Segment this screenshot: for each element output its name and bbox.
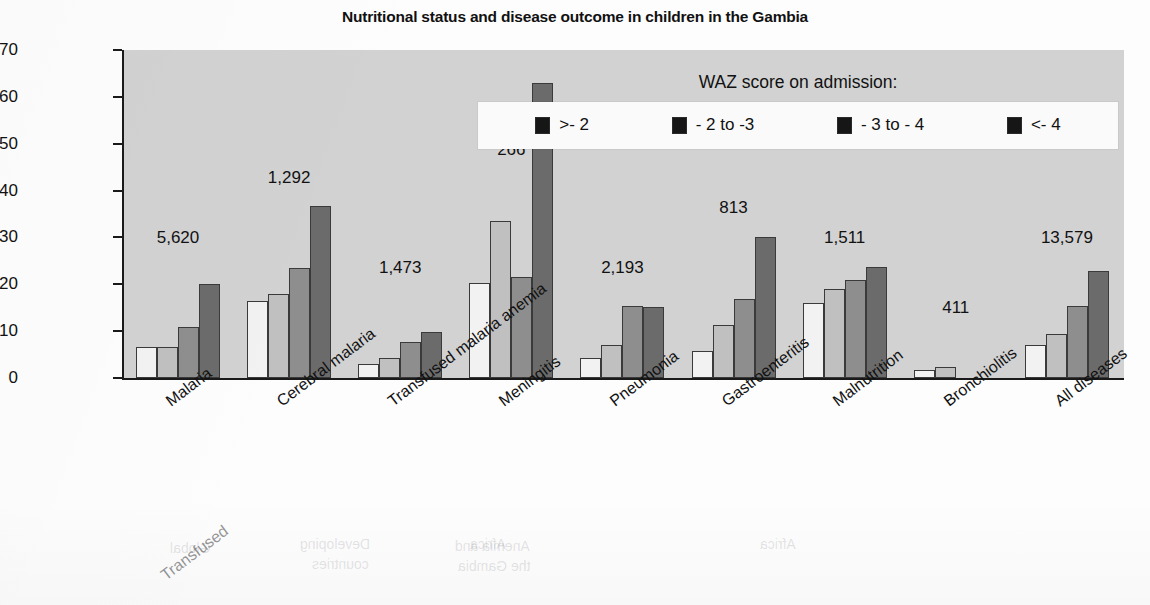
legend-box: >- 2 - 2 to -3 - 3 to - 4 <- 4	[478, 102, 1118, 149]
y-tick-mark	[113, 96, 122, 98]
bar-group	[136, 50, 220, 378]
group-count-label: 2,193	[601, 258, 644, 278]
bar[interactable]	[692, 351, 713, 378]
bar[interactable]	[1046, 334, 1067, 378]
y-tick-mark	[113, 49, 122, 51]
legend-swatch-icon	[672, 117, 687, 134]
ghost-text-fragment: countries	[312, 556, 369, 572]
legend-item-0[interactable]: >- 2	[535, 115, 589, 135]
y-tick-label: 10	[0, 321, 18, 341]
bar[interactable]	[580, 358, 601, 378]
bar[interactable]	[713, 325, 734, 378]
group-count-label: 1,511	[824, 228, 865, 248]
y-tick-mark	[113, 283, 122, 285]
bar[interactable]	[1067, 306, 1088, 378]
legend-item-label: - 2 to -3	[696, 115, 755, 135]
ghost-text-fragment: Developing	[300, 536, 370, 552]
bar[interactable]	[289, 268, 310, 378]
y-tick-mark	[113, 236, 122, 238]
bar[interactable]	[136, 347, 157, 378]
bar[interactable]	[601, 345, 622, 378]
group-count-label: 13,579	[1041, 228, 1093, 248]
bar[interactable]	[1025, 345, 1046, 378]
group-count-label: 1,292	[268, 168, 311, 188]
y-tick-mark	[113, 330, 122, 332]
y-tick-label: 50	[0, 134, 18, 154]
legend: WAZ score on admission: >- 2 - 2 to -3 -…	[478, 72, 1118, 149]
bar[interactable]	[824, 289, 845, 378]
legend-item-label: >- 2	[559, 115, 589, 135]
bar[interactable]	[310, 206, 331, 378]
legend-item-1[interactable]: - 2 to -3	[672, 115, 755, 135]
y-tick-label: 60	[0, 87, 18, 107]
y-tick-label: 0	[0, 368, 18, 388]
group-count-label: 1,473	[379, 258, 422, 278]
ghost-text-fragment: Africa	[760, 536, 796, 552]
ghost-text-fragment: Anemia and	[455, 538, 530, 554]
y-tick-mark	[113, 143, 122, 145]
bar[interactable]	[379, 358, 400, 378]
ghost-text-fragment: the Gambia	[458, 558, 530, 574]
bar[interactable]	[935, 367, 956, 378]
y-tick-label: 70	[0, 40, 18, 60]
bar[interactable]	[199, 284, 220, 378]
group-count-label: 5,620	[157, 228, 200, 248]
bar[interactable]	[622, 306, 643, 378]
legend-swatch-icon	[535, 117, 550, 134]
bar[interactable]	[845, 280, 866, 378]
legend-title: WAZ score on admission:	[478, 72, 1118, 93]
legend-item-2[interactable]: - 3 to - 4	[837, 115, 924, 135]
bar[interactable]	[157, 347, 178, 378]
ghost-text-fragment: Africa	[470, 536, 506, 552]
bar[interactable]	[490, 221, 511, 378]
legend-item-label: <- 4	[1031, 115, 1061, 135]
bar[interactable]	[734, 299, 755, 378]
bar[interactable]	[247, 301, 268, 378]
legend-swatch-icon	[1007, 117, 1022, 134]
bar[interactable]	[914, 370, 935, 378]
legend-item-3[interactable]: <- 4	[1007, 115, 1061, 135]
legend-swatch-icon	[837, 117, 852, 134]
y-tick-label: 20	[0, 274, 18, 294]
y-tick-label: 40	[0, 181, 18, 201]
y-tick-mark	[113, 377, 122, 379]
bar-group	[247, 50, 331, 378]
group-count-label: 813	[719, 198, 747, 218]
x-tick-label-overflow: Transfused	[158, 522, 232, 584]
legend-item-label: - 3 to - 4	[861, 115, 924, 135]
y-tick-mark	[113, 190, 122, 192]
bar[interactable]	[268, 294, 289, 378]
y-tick-label: 30	[0, 227, 18, 247]
group-count-label: 411	[942, 298, 969, 318]
bar[interactable]	[358, 364, 379, 378]
page-title: Nutritional status and disease outcome i…	[0, 8, 1150, 26]
